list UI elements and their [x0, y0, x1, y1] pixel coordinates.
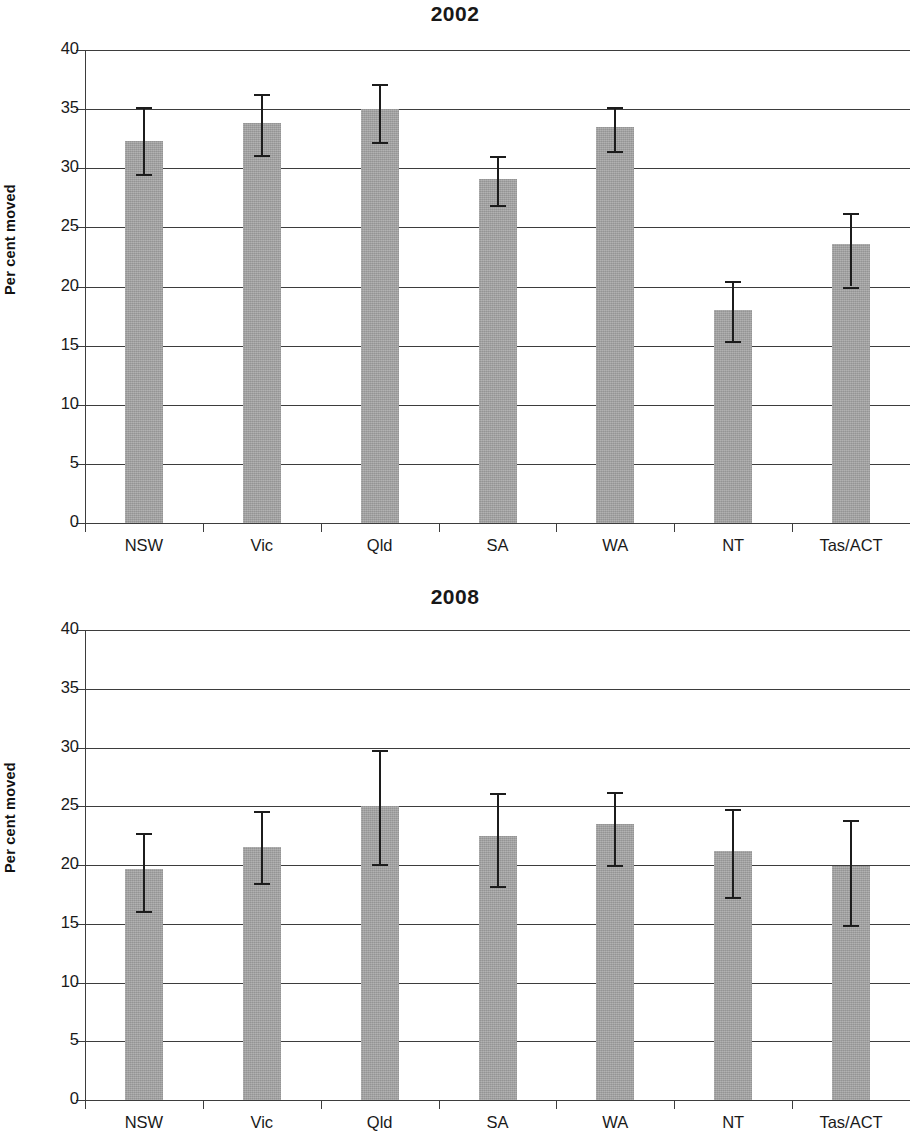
x-tick-6 [792, 1100, 793, 1109]
error-bar-tas-act [850, 213, 852, 286]
error-cap-lower-nt [725, 341, 741, 343]
error-cap-upper-nsw [136, 107, 152, 109]
x-tick-5 [674, 1100, 675, 1109]
error-bar-sa [497, 156, 499, 204]
x-tick-label-wa: WA [602, 1113, 628, 1132]
gridline-35 [85, 109, 910, 110]
error-cap-upper-nsw [136, 833, 152, 835]
error-cap-upper-qld [372, 750, 388, 752]
x-axis-line [85, 523, 910, 524]
x-tick-4 [556, 523, 557, 532]
error-bar-nt [732, 281, 734, 341]
x-tick-4 [556, 1100, 557, 1109]
x-tick-label-nsw: NSW [125, 536, 164, 555]
error-cap-lower-vic [254, 155, 270, 157]
error-cap-lower-vic [254, 883, 270, 885]
error-cap-lower-nsw [136, 174, 152, 176]
x-tick-label-vic: Vic [250, 1113, 273, 1132]
x-tick-label-qld: Qld [367, 1113, 393, 1132]
x-axis-line [85, 1100, 910, 1101]
chart-panel-2002: 2002 Per cent moved 0510152025303540NSWV… [0, 0, 910, 573]
error-cap-upper-tas-act [843, 213, 859, 215]
error-cap-upper-tas-act [843, 820, 859, 822]
chart-title-2002: 2002 [0, 2, 910, 26]
y-tick-label-20: 20 [61, 854, 79, 873]
y-tick-label-10: 10 [61, 394, 79, 413]
error-cap-upper-qld [372, 84, 388, 86]
error-cap-upper-vic [254, 94, 270, 96]
x-tick-label-tas-act: Tas/ACT [819, 1113, 882, 1132]
error-bar-nt [732, 809, 734, 897]
y-tick-label-35: 35 [61, 678, 79, 697]
x-tick-6 [792, 523, 793, 532]
bar-vic [243, 847, 281, 1100]
bar-qld [361, 109, 399, 523]
error-cap-lower-wa [607, 865, 623, 867]
bar-wa [596, 127, 634, 523]
x-tick-label-nsw: NSW [125, 1113, 164, 1132]
error-bar-wa [614, 792, 616, 865]
error-cap-upper-nt [725, 809, 741, 811]
gridline-35 [85, 689, 910, 690]
x-tick-5 [674, 523, 675, 532]
bar-sa [479, 179, 517, 523]
y-tick-label-40: 40 [61, 39, 79, 58]
y-axis-line [85, 630, 86, 1100]
error-bar-nsw [143, 107, 145, 174]
plot-area-2002: 0510152025303540NSWVicQldSAWANTTas/ACT [85, 50, 910, 523]
gridline-30 [85, 748, 910, 749]
error-bar-sa [497, 793, 499, 886]
x-tick-label-wa: WA [602, 536, 628, 555]
x-tick-0 [85, 1100, 86, 1109]
error-cap-lower-wa [607, 151, 623, 153]
y-tick-label-15: 15 [61, 913, 79, 932]
y-axis-label-2002: Per cent moved [2, 275, 18, 295]
error-cap-upper-sa [490, 156, 506, 158]
error-cap-lower-qld [372, 142, 388, 144]
y-tick-label-30: 30 [61, 737, 79, 756]
error-cap-upper-wa [607, 792, 623, 794]
y-tick-label-30: 30 [61, 157, 79, 176]
y-tick-label-40: 40 [61, 619, 79, 638]
x-tick-2 [321, 1100, 322, 1109]
x-tick-label-sa: SA [486, 536, 508, 555]
error-bar-vic [261, 94, 263, 155]
y-axis-label-2008: Per cent moved [2, 853, 18, 873]
y-axis-line [85, 50, 86, 523]
error-cap-lower-tas-act [843, 287, 859, 289]
error-cap-lower-sa [490, 886, 506, 888]
error-bar-tas-act [850, 820, 852, 925]
x-tick-label-nt: NT [722, 1113, 744, 1132]
error-bar-qld [379, 84, 381, 142]
error-cap-lower-qld [372, 864, 388, 866]
y-tick-label-20: 20 [61, 276, 79, 295]
bar-nsw [125, 141, 163, 523]
x-tick-3 [439, 1100, 440, 1109]
y-tick-label-0: 0 [70, 512, 79, 531]
error-bar-wa [614, 107, 616, 151]
x-tick-2 [321, 523, 322, 532]
y-tick-label-35: 35 [61, 98, 79, 117]
error-cap-lower-nt [725, 897, 741, 899]
error-bar-nsw [143, 833, 145, 911]
chart-panel-2008: 2008 Per cent moved 0510152025303540NSWV… [0, 573, 910, 1146]
two-panel-bar-chart-figure: 2002 Per cent moved 0510152025303540NSWV… [0, 0, 910, 1146]
x-tick-label-tas-act: Tas/ACT [819, 536, 882, 555]
error-cap-upper-nt [725, 281, 741, 283]
x-tick-1 [203, 1100, 204, 1109]
y-tick-label-25: 25 [61, 216, 79, 235]
x-tick-label-vic: Vic [250, 536, 273, 555]
error-cap-upper-sa [490, 793, 506, 795]
x-tick-3 [439, 523, 440, 532]
y-tick-label-25: 25 [61, 795, 79, 814]
y-tick-label-5: 5 [70, 453, 79, 472]
x-tick-0 [85, 523, 86, 532]
error-bar-qld [379, 750, 381, 864]
error-cap-lower-sa [490, 205, 506, 207]
plot-area-2008: 0510152025303540NSWVicQldSAWANTTas/ACT [85, 630, 910, 1100]
y-tick-label-15: 15 [61, 335, 79, 354]
x-tick-label-qld: Qld [367, 536, 393, 555]
chart-title-2008: 2008 [0, 585, 910, 609]
x-tick-label-nt: NT [722, 536, 744, 555]
x-tick-1 [203, 523, 204, 532]
